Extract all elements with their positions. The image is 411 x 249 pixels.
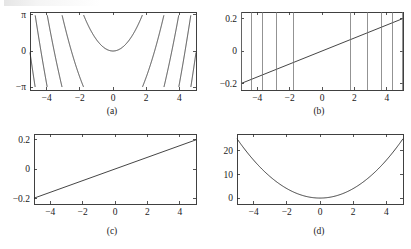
ramp-line: [34, 140, 196, 198]
panel-a-plot: −4−2024−π0π: [4, 6, 200, 106]
figure-root: −4−2024−π0π (a) −4−2024−0.200.2 (b) −4−2…: [0, 0, 411, 249]
x-tick-label: −4: [249, 207, 259, 217]
y-tick-label: 0: [21, 46, 26, 56]
wrapped-phase-curve: [164, 15, 179, 87]
panel-b: −4−2024−0.200.2: [211, 6, 407, 106]
wrapped-phase-curve: [84, 15, 143, 51]
y-tick-label: 0: [25, 164, 30, 174]
unwrapped-phase-curve: [237, 139, 403, 198]
x-tick-label: 2: [144, 93, 149, 103]
panel-b-plot: −4−2024−0.200.2: [211, 6, 407, 106]
wrapped-phase-curve: [142, 15, 163, 87]
wrapped-phase-curve: [47, 15, 62, 87]
x-tick-label: −2: [78, 207, 88, 217]
y-tick-label: −0.2: [220, 79, 237, 89]
wrapped-phase-curve: [35, 15, 47, 86]
x-tick-label: 2: [351, 207, 356, 217]
x-tick-label: −4: [45, 207, 55, 217]
y-tick-label: 0.2: [225, 14, 237, 24]
wrapped-phase-curve: [30, 53, 35, 87]
y-tick-label: −π: [16, 82, 26, 92]
x-tick-label: 0: [111, 93, 116, 103]
wrapped-phase-curve: [191, 53, 196, 87]
panel-b-caption: (b): [289, 106, 349, 116]
y-tick-label: 20: [224, 146, 234, 156]
y-tick-label: 0.2: [18, 135, 30, 145]
panel-d-plot: −4−202401020: [211, 128, 407, 220]
x-tick-label: 4: [177, 207, 182, 217]
panel-a-caption: (a): [82, 106, 142, 116]
x-tick-label: 0: [318, 207, 323, 217]
panel-d: −4−202401020: [211, 128, 407, 220]
x-tick-label: 4: [384, 207, 389, 217]
wrapped-phase-curve: [62, 15, 83, 87]
x-tick-label: 0: [113, 207, 118, 217]
x-tick-label: −2: [285, 93, 295, 103]
ramp-line: [241, 19, 403, 84]
x-tick-label: −2: [75, 93, 85, 103]
y-tick-label: 10: [224, 170, 234, 180]
panel-c: −4−2024−0.200.2: [4, 128, 200, 220]
x-tick-label: −4: [42, 93, 52, 103]
y-tick-label: 0: [232, 46, 237, 56]
y-tick-label: −0.2: [13, 194, 30, 204]
panel-a: −4−2024−π0π: [4, 6, 200, 106]
panel-c-plot: −4−2024−0.200.2: [4, 128, 200, 220]
x-tick-label: 2: [352, 93, 357, 103]
x-tick-label: 4: [177, 93, 182, 103]
wrapped-phase-curve: [179, 15, 191, 86]
y-tick-label: π: [21, 10, 26, 20]
panel-c-caption: (c): [82, 226, 142, 236]
panel-d-caption: (d): [289, 226, 349, 236]
x-tick-label: 2: [145, 207, 150, 217]
x-tick-label: 4: [384, 93, 389, 103]
x-tick-label: −2: [282, 207, 292, 217]
x-tick-label: −4: [252, 93, 262, 103]
y-tick-label: 0: [228, 193, 233, 203]
x-tick-label: 0: [320, 93, 325, 103]
